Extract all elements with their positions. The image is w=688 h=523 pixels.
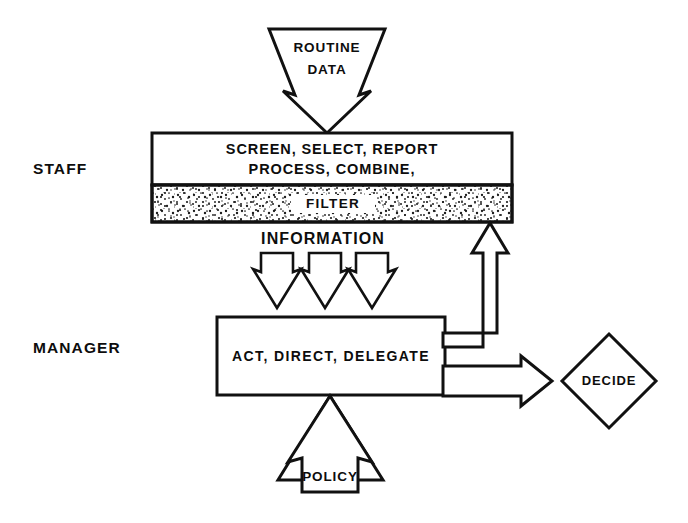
routine-data-arrow: ROUTINE DATA — [269, 29, 385, 133]
staff-box-line1: SCREEN, SELECT, REPORT — [226, 141, 438, 157]
policy-arrow: POLICY — [278, 396, 383, 492]
staff-box: SCREEN, SELECT, REPORT PROCESS, COMBINE,… — [152, 133, 512, 222]
routine-data-label-line1: ROUTINE — [293, 40, 360, 55]
manager-box-line1: ACT, DIRECT, DELEGATE — [232, 348, 430, 364]
decide-label: DECIDE — [582, 373, 637, 388]
feedback-arrow-to-filter — [443, 223, 508, 347]
decide-arrow — [443, 356, 552, 406]
information-arrow-1 — [253, 253, 301, 308]
filter-label: FILTER — [306, 196, 360, 211]
routine-data-label-line2: DATA — [307, 62, 346, 77]
diagram-canvas: ROUTINE DATA SCREEN, SELECT, REPORT PROC… — [0, 0, 688, 523]
information-label: INFORMATION — [261, 230, 385, 247]
decide-diamond: DECIDE — [562, 334, 656, 428]
information-arrow-2 — [301, 253, 349, 308]
staff-box-line2: PROCESS, COMBINE, — [249, 161, 416, 177]
diagram-svg: ROUTINE DATA SCREEN, SELECT, REPORT PROC… — [0, 0, 688, 523]
side-label-staff: STAFF — [33, 160, 87, 177]
manager-box: ACT, DIRECT, DELEGATE — [217, 317, 445, 395]
information-arrow-3 — [348, 253, 396, 308]
policy-label: POLICY — [302, 469, 358, 484]
side-label-manager: MANAGER — [33, 339, 121, 356]
information-flow-group: INFORMATION — [253, 230, 396, 308]
